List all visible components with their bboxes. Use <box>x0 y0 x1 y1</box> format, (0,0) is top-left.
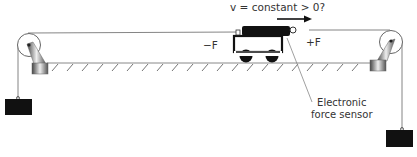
left-hanging-mass <box>5 97 32 116</box>
cart <box>234 26 290 63</box>
right-hanging-mass <box>386 128 413 148</box>
force-right-label: +F <box>306 36 321 48</box>
left-pulley <box>18 34 49 75</box>
sensor-label-line1: Electronic <box>311 97 373 109</box>
track-surface <box>47 63 370 71</box>
sensor-label-line2: force sensor <box>311 109 373 121</box>
velocity-arrow <box>277 16 312 23</box>
velocity-label: v = constant > 0? <box>230 1 325 13</box>
force-left-label: −F <box>203 39 218 51</box>
electronic-force-sensor <box>290 27 296 33</box>
diagram-canvas <box>0 0 417 157</box>
sensor-label: Electronic force sensor <box>311 97 373 121</box>
right-pulley <box>370 31 403 72</box>
